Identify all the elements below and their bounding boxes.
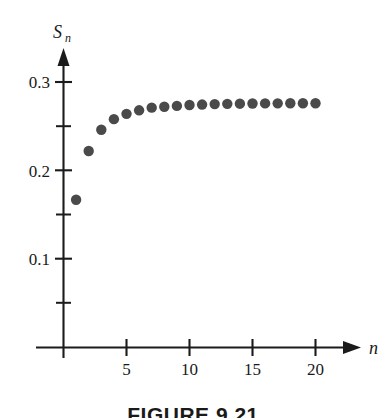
data-point xyxy=(109,114,119,124)
data-point xyxy=(134,105,144,115)
y-tick-label-0.3: 0.3 xyxy=(29,73,50,92)
data-point xyxy=(121,109,131,119)
partial-sums-scatter-plot: 0.3 0.2 0.1 5 10 15 20 S n n xyxy=(0,0,386,418)
data-point xyxy=(159,102,169,112)
x-tick-label-20: 20 xyxy=(307,360,324,379)
y-axis-title-subscript: n xyxy=(65,31,71,45)
data-point xyxy=(184,100,194,110)
y-axis-title: S xyxy=(53,22,62,42)
data-point xyxy=(197,99,207,109)
y-axis-arrow-icon xyxy=(58,48,70,66)
data-point xyxy=(298,98,308,108)
x-tick-label-15: 15 xyxy=(244,360,261,379)
data-point xyxy=(235,98,245,108)
x-axis-title: n xyxy=(369,338,378,358)
x-tick-label-5: 5 xyxy=(122,360,131,379)
data-point xyxy=(96,125,106,135)
data-point xyxy=(84,146,94,156)
data-point xyxy=(210,99,220,109)
data-point xyxy=(247,98,257,108)
data-point xyxy=(260,98,270,108)
figure-root: 0.3 0.2 0.1 5 10 15 20 S n n FIGURE 9.21 xyxy=(0,0,386,418)
data-point xyxy=(147,102,157,112)
data-point xyxy=(310,98,320,108)
data-point xyxy=(71,195,81,205)
data-point xyxy=(285,98,295,108)
data-point-layer xyxy=(71,98,321,205)
y-tick-label-0.2: 0.2 xyxy=(29,162,50,181)
data-point xyxy=(172,101,182,111)
x-tick-label-10: 10 xyxy=(181,360,198,379)
y-tick-label-0.1: 0.1 xyxy=(29,250,50,269)
data-point xyxy=(222,99,232,109)
x-axis-arrow-icon xyxy=(343,341,361,354)
data-point xyxy=(273,98,283,108)
